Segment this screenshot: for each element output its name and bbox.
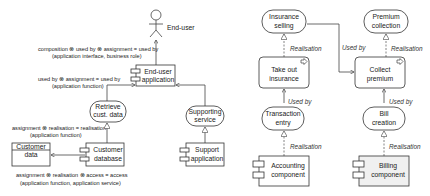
relation-label: Used by [342, 44, 366, 52]
svg-text:Insurance: Insurance [269, 13, 299, 20]
collect-premium-process[interactable]: Collect premium [355, 57, 405, 88]
svg-text:premium: premium [367, 75, 394, 83]
svg-text:Collect: Collect [370, 66, 391, 73]
retrieve-cust-data-service[interactable]: Retrieve cust. data [90, 101, 126, 122]
customer-database-component[interactable]: Customer database [80, 143, 124, 166]
svg-text:Accounting: Accounting [271, 162, 305, 170]
svg-text:Bill: Bill [379, 110, 389, 117]
end-user-application-node[interactable]: End-user application [131, 65, 175, 86]
annotation-3-line2: (application function) [30, 132, 82, 138]
svg-text:Billing: Billing [379, 162, 397, 170]
svg-text:service: service [194, 116, 216, 123]
svg-text:Premium: Premium [372, 13, 400, 20]
component-icon [253, 161, 264, 167]
transaction-entry-service[interactable]: Transaction entry [262, 107, 304, 130]
svg-text:Customer: Customer [93, 146, 123, 153]
component-icon [353, 161, 364, 167]
svg-text:selling: selling [274, 22, 293, 30]
relation-label: Realisation [290, 45, 322, 52]
svg-text:data: data [24, 151, 37, 158]
svg-text:insurance: insurance [269, 75, 299, 82]
accounting-component[interactable]: Accounting component [253, 156, 309, 186]
relation-label: Used by [389, 98, 413, 106]
relation-label: Realisation [290, 143, 322, 150]
take-out-insurance-process[interactable]: Take out insurance [259, 57, 309, 88]
svg-text:Retrieve: Retrieve [95, 103, 121, 110]
actor-head-icon [151, 10, 161, 20]
svg-text:database: database [94, 155, 122, 162]
annotation-1-line2: (application interface, business role) [52, 53, 142, 59]
svg-text:Customer: Customer [16, 143, 46, 150]
annotation-4-line1: assignment ⊗ realisation ⊗ access = acce… [16, 172, 128, 178]
svg-text:entry: entry [275, 119, 291, 127]
svg-text:End-user: End-user [144, 68, 172, 75]
svg-text:component: component [371, 171, 405, 179]
svg-text:Support: Support [195, 146, 219, 154]
annotation-2-line1: used by ⊗ assignment = used by [38, 76, 120, 82]
diagram-canvas: End-user composition ⊗ used by ⊗ assignm… [0, 0, 430, 196]
svg-text:cust. data: cust. data [93, 111, 123, 118]
relation-label: Realisation [391, 45, 423, 52]
annotation-2-line2: (application function) [52, 83, 104, 89]
supporting-service[interactable]: Supporting service [186, 106, 224, 126]
used-by-line-retrieve [107, 85, 135, 103]
svg-text:Supporting: Supporting [189, 108, 222, 116]
svg-text:application: application [191, 155, 224, 163]
end-user-actor[interactable] [149, 10, 163, 37]
customer-data-object[interactable]: Customer data [12, 143, 50, 166]
svg-text:collection: collection [372, 22, 401, 29]
annotation-1-line1: composition ⊗ used by ⊗ assignment = use… [38, 46, 158, 52]
insurance-selling-service[interactable]: Insurance selling [262, 10, 306, 33]
svg-text:creation: creation [372, 119, 396, 126]
svg-text:Transaction: Transaction [265, 110, 300, 117]
svg-text:Take out: Take out [271, 66, 297, 73]
annotation-3-line1: assignment ⊗ realisation = realisation [12, 125, 106, 131]
svg-text:component: component [271, 171, 305, 179]
bill-creation-service[interactable]: Bill creation [363, 107, 405, 130]
used-by-line-supporting [176, 85, 205, 108]
billing-component[interactable]: Billing component [353, 156, 409, 186]
actor-label: End-user [167, 24, 195, 31]
component-icon [80, 148, 89, 152]
relation-label: Realisation [389, 143, 421, 150]
annotation-4-line2: (application function, application servi… [20, 180, 121, 186]
support-application-component[interactable]: Support application [180, 143, 224, 166]
component-icon [180, 148, 189, 152]
premium-collection-service[interactable]: Premium collection [364, 10, 408, 33]
svg-text:application: application [142, 76, 175, 84]
component-icon [131, 69, 140, 73]
relation-label: Used by [288, 98, 312, 106]
